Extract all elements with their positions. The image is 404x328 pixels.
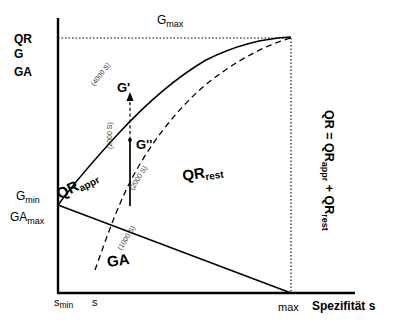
ga-straight-line [58, 205, 291, 293]
point-label-g-double-prime: G'' [136, 138, 152, 151]
gamax-base: GA [10, 210, 27, 224]
y-axis-name-qr: QR [14, 33, 32, 45]
region-label-ga: GA [106, 251, 130, 269]
x-axis-symbol: s [92, 297, 98, 308]
gmax-sub: max [166, 19, 183, 29]
region-qr-rest-base: QR [181, 164, 206, 184]
gmax-label: Gmax [157, 14, 183, 29]
x-tick-smin-sub: min [60, 300, 74, 310]
y-axis-name-ga: GA [14, 66, 32, 78]
gamax-label: GAmax [10, 211, 44, 226]
equation-term1-base: QR [322, 143, 336, 162]
point-label-g-prime: G' [117, 81, 130, 94]
x-tick-max: max [278, 302, 299, 313]
diagram-canvas: QR G GA Gmax Gmin GAmax smin s max Spezi… [0, 0, 404, 328]
gamax-sub: max [27, 216, 44, 226]
equation-term1-sub: appr [320, 162, 330, 182]
y-axis-name-g: G [14, 48, 23, 60]
x-axis-title: Spezifität s [312, 300, 375, 312]
g-double-prime-point-marker [128, 138, 132, 142]
equation-caption: QR = QRappr + QRrest [320, 110, 335, 231]
gmax-base: G [157, 13, 166, 27]
equation-term2-sub: rest [320, 214, 330, 231]
gmin-label: Gmin [16, 190, 40, 205]
equation-plus: + [322, 181, 336, 195]
equation-term2-base: QR [322, 196, 336, 215]
gmin-base: G [16, 189, 25, 203]
equation-lhs: QR [322, 110, 336, 129]
gmin-sub: min [25, 195, 40, 205]
tag-2000s-arrow: (2000 S) [106, 122, 113, 149]
x-tick-smin: smin [54, 297, 73, 310]
equation-equals: = [322, 129, 336, 143]
